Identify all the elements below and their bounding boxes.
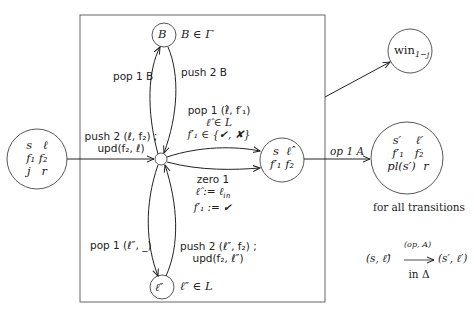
mid-node-label: s ℓ̂ f′₁ f₂ xyxy=(264,145,300,171)
caption-line1: for all transitions xyxy=(364,201,474,213)
top-node-label: B xyxy=(158,28,166,41)
zero-label: zero 1 ℓ̂ := ℓin f′₁ := ✔ xyxy=(188,173,238,213)
win-node-label: win1−j xyxy=(394,44,429,60)
push-bottom-edge xyxy=(165,165,176,276)
pop-hat-label: pop 1 (ℓ̂, f′₁) ℓ̂ ∈ L f′₁ ∈ {✔, ✘} xyxy=(186,104,252,140)
push-B-edge xyxy=(164,47,176,153)
caption-rhs: (s′, ℓ′) xyxy=(438,252,467,264)
bottom-node-label: ℓ″ xyxy=(155,281,163,293)
pop-bottom-label: pop 1 (ℓ″, _) xyxy=(90,239,152,251)
caption: for all transitions xyxy=(364,201,474,213)
pop-B-label: pop 1 B xyxy=(113,70,153,82)
bottom-node-annotation: ℓ″ ∈ L xyxy=(180,280,213,293)
pop-bottom-edge xyxy=(148,165,158,276)
pop-hat-edge xyxy=(167,148,260,157)
target-node-label: s′ ℓ′ f′₁ f₂ pl(s′) r xyxy=(380,134,436,174)
push-bottom-label: push 2 (ℓ″, f₂) ; upd(f₂, ℓ″) xyxy=(180,240,256,264)
caption-line3: in Δ xyxy=(364,268,474,280)
push-B-label: push 2 B xyxy=(181,66,227,78)
win-edge xyxy=(325,62,390,97)
zero-edge xyxy=(167,162,260,169)
caption-arrow-label: (op, A) xyxy=(404,240,431,249)
start-node-label: s ℓ f₁ f₂ j r xyxy=(14,139,60,179)
top-node-annotation: B ∈ Γ xyxy=(181,28,213,41)
entry-edge-label: push 2 (ℓ, f₂) ; upd(f₂, ℓ) xyxy=(80,130,162,154)
op-edge-label: op 1 A xyxy=(330,145,364,157)
center-node xyxy=(155,153,167,165)
caption-lhs: (s, ℓ̂) xyxy=(366,252,391,264)
